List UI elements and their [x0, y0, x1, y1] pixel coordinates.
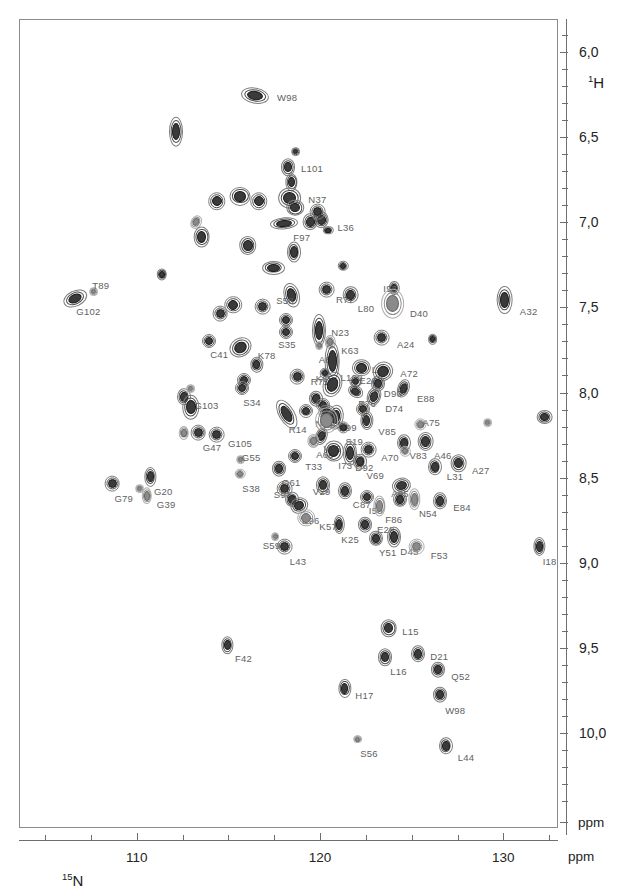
y-axis-minor-tick [562, 767, 568, 768]
contour-ring [430, 336, 435, 342]
peak-q61 [275, 464, 283, 473]
peak-a70 [364, 445, 373, 454]
contour-ring [144, 491, 150, 501]
contour-ring [328, 445, 339, 457]
y-axis-minor-tick [562, 699, 568, 700]
contour-ring [315, 321, 323, 340]
contour-ring [253, 360, 260, 369]
peak-label-f86: F86 [385, 515, 402, 525]
peak-label-a32: A32 [520, 307, 538, 317]
contour-ring [536, 541, 543, 552]
contour-ring [310, 437, 317, 445]
contour-ring [290, 246, 298, 258]
y-axis-minor-tick [562, 324, 568, 325]
y-axis-major-tick [560, 563, 568, 564]
contour-ring [355, 737, 360, 742]
contour-ring [293, 372, 302, 381]
peak-label-d74: D74 [385, 404, 403, 414]
x-axis-major-tick [137, 833, 138, 841]
y-axis-minor-tick [562, 444, 568, 445]
peak-unlabeled-46 [253, 360, 260, 369]
y-axis-minor-tick [562, 239, 568, 240]
x-axis-minor-tick [366, 835, 367, 841]
peak-unlabeled-19 [267, 264, 280, 272]
peak-label-l101: L101 [301, 164, 323, 174]
x-axis-minor-tick [183, 835, 184, 841]
contour-ring [212, 430, 221, 439]
peak-unlabeled-15 [193, 218, 199, 226]
y-axis-minor-tick [562, 529, 568, 530]
y-axis-minor-tick [562, 35, 568, 36]
contour-ring [381, 652, 389, 662]
contour-ring [356, 363, 367, 373]
peak-r71 [293, 372, 302, 381]
peak-label-a72: A72 [400, 369, 418, 379]
contour-ring [212, 196, 222, 206]
contour-ring [267, 264, 280, 272]
contour-ring [363, 415, 370, 426]
peak-d21 [414, 649, 422, 659]
contour-ring [454, 458, 463, 468]
y-axis-major-tick [560, 222, 568, 223]
y-axis-minor-tick [562, 461, 568, 462]
peak-l31 [431, 462, 439, 472]
contour-ring [254, 196, 264, 206]
y-axis-minor-tick [562, 801, 568, 802]
contour-ring [540, 413, 549, 421]
contour-ring [197, 231, 206, 243]
contour-ring [280, 542, 289, 551]
peak-label-l31: L31 [447, 472, 463, 482]
contour-ring [224, 640, 231, 650]
y-axis-tick-label: 6,0 [579, 44, 598, 60]
contour-ring [390, 531, 398, 543]
y-axis-minor-tick [562, 750, 568, 751]
contour-ring [147, 471, 154, 482]
peak-unlabeled-14 [325, 228, 331, 233]
contour-ring [384, 623, 393, 633]
peak-unlabeled-32 [216, 309, 225, 318]
peak-label-g55: G55 [242, 453, 261, 463]
peak-e84 [436, 496, 444, 506]
x-axis-tick-label: 130 [492, 850, 515, 865]
peak-layer: W98L101N37T49F97L36T89G102S58R77L80I93D4… [20, 20, 557, 827]
contour-ring [282, 316, 290, 324]
contour-ring [258, 302, 267, 311]
y-axis-minor-tick [562, 120, 568, 121]
peak-v69 [356, 457, 364, 466]
peak-l16 [381, 652, 389, 662]
peak-l48 [356, 363, 367, 373]
y-axis-minor-tick [562, 716, 568, 717]
contour-ring [336, 519, 342, 530]
x-axis-isotope-mass: 15 [62, 871, 73, 882]
y-axis-isotope-symbol: H [593, 74, 604, 91]
peak-unlabeled-74 [181, 429, 187, 437]
peak-label-d40: D40 [410, 309, 428, 319]
y-axis-minor-tick [562, 682, 568, 683]
contour-ring [411, 493, 418, 506]
contour-ring [108, 479, 117, 488]
y-axis-tick-label: 9,5 [579, 640, 598, 656]
peak-r14 [282, 405, 291, 423]
y-axis-tick-label: 7,5 [579, 299, 598, 315]
peak-label-v85: V85 [378, 427, 396, 437]
peak-a114 [540, 413, 549, 421]
peak-n54 [411, 493, 418, 506]
y-axis-unit-label: ppm [578, 815, 604, 830]
contour-ring [288, 177, 295, 187]
contour-ring [402, 448, 408, 454]
peak-f53 [412, 542, 421, 551]
peak-label-s58: S58 [276, 296, 294, 306]
peak-unlabeled-2 [293, 149, 298, 154]
contour-ring [194, 428, 203, 437]
peak-label-v29: V29 [313, 487, 331, 497]
peak-label-l36: L36 [338, 223, 354, 233]
contour-ring [238, 384, 246, 392]
peak-i73 [328, 445, 339, 457]
peak-unlabeled-8 [212, 196, 222, 206]
contour-ring [356, 457, 364, 466]
contour-ring [282, 328, 290, 336]
peak-g102 [68, 294, 82, 303]
peak-a67 [317, 343, 322, 348]
y-axis-unit-tick [560, 822, 568, 823]
x-axis-minor-tick [549, 835, 550, 841]
